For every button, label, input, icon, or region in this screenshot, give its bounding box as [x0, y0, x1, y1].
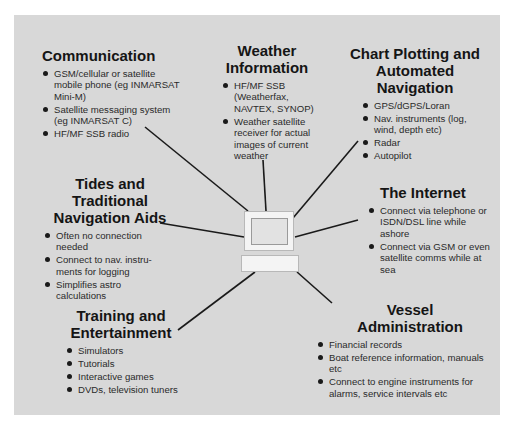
section-tides: Tides and Traditional Navigation Aids Of…: [40, 175, 180, 303]
computer-base: [241, 255, 299, 272]
list-item: Satellite messaging system (eg INMARSAT …: [42, 104, 182, 127]
section-chart-plotting: Chart Plotting and Automated Navigation …: [340, 45, 490, 163]
list-item: Connect to nav. instru-ments for logging: [44, 254, 159, 277]
connector-weather: [263, 160, 266, 211]
monitor-icon: [244, 211, 294, 251]
list-item: DVDs, television tuners: [66, 384, 216, 395]
list-item: GPS/dGPS/Loran: [362, 100, 490, 111]
list-item: Tutorials: [66, 358, 216, 369]
list-item: Financial records: [317, 339, 497, 350]
list-item: Often no connection needed: [44, 230, 159, 253]
section-title: Weather Information: [218, 42, 330, 76]
list-item: Weather satellite receiver for actual im…: [222, 116, 330, 162]
list-item: Connect via telephone or ISDN/DSL line w…: [368, 205, 494, 239]
section-internet: The Internet Connect via telephone or IS…: [368, 184, 494, 276]
list-item: Simulators: [66, 345, 216, 356]
list-item: Connect to engine instruments for alarms…: [317, 376, 497, 399]
list-item: HF/MF SSB radio: [42, 128, 182, 139]
list-item: Boat reference information, manuals etc: [317, 352, 497, 375]
connector-vessel: [297, 272, 332, 303]
section-weather: Weather Information HF/MF SSB (Weatherfa…: [218, 42, 330, 163]
list-item: Radar: [362, 137, 490, 148]
section-title: Communication: [42, 47, 182, 64]
section-vessel: Vessel Administration Financial records …: [317, 301, 497, 401]
section-title: The Internet: [368, 184, 494, 201]
list-item: Connect via GSM or even satellite comms …: [368, 241, 494, 275]
list-item: HF/MF SSB (Weatherfax, NAVTEX, SYNOP): [222, 80, 330, 114]
section-title: Tides and Traditional Navigation Aids: [40, 175, 180, 226]
section-title: Training and Entertainment: [66, 307, 176, 341]
section-training: Training and Entertainment Simulators Tu…: [66, 307, 216, 397]
list-item: Autopilot: [362, 150, 490, 161]
monitor-screen: [251, 218, 288, 245]
connector-internet: [295, 220, 358, 237]
list-item: Interactive games: [66, 371, 216, 382]
list-item: Nav. instruments (log, wind, depth etc): [362, 113, 490, 136]
section-communication: Communication GSM/cellular or satellite …: [42, 47, 182, 141]
list-item: Simplifies astro calculations: [44, 279, 159, 302]
list-item: GSM/cellular or satellite mobile phone (…: [42, 68, 182, 102]
section-title: Vessel Administration: [317, 301, 485, 335]
section-title: Chart Plotting and Automated Navigation: [340, 45, 490, 96]
